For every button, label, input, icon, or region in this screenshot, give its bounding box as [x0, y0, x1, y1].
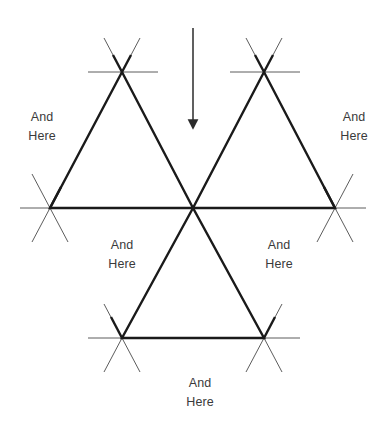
- upper-right-triangle: [193, 72, 335, 208]
- ray-diag-bottom-right-c: [246, 338, 264, 372]
- label-inner-left-line2: Here: [98, 255, 146, 274]
- diagram-canvas: And Here And Here And Here And Here And …: [0, 0, 386, 425]
- ray-diag-mid-left-b: [32, 208, 50, 242]
- stub-top-right-b: [255, 55, 264, 72]
- label-inner-right-line1: And: [255, 236, 303, 255]
- ray-diag-mid-left-c: [50, 208, 68, 242]
- upper-left-triangle: [50, 72, 193, 208]
- label-upper-left: And Here: [18, 108, 66, 146]
- label-upper-left-line2: Here: [18, 127, 66, 146]
- ray-diag-mid-right-c: [317, 208, 335, 242]
- ray-diag-bottom-left-b: [104, 338, 122, 372]
- triangles-figure: [0, 0, 386, 425]
- ray-diag-mid-left-a: [32, 174, 50, 208]
- stub-bottom-left: [111, 317, 122, 338]
- label-inner-right: And Here: [255, 236, 303, 274]
- label-inner-right-line2: Here: [255, 255, 303, 274]
- stub-bottom-right: [264, 317, 275, 338]
- label-inner-left-line1: And: [98, 236, 146, 255]
- label-bottom: And Here: [176, 374, 224, 412]
- label-bottom-line1: And: [176, 374, 224, 393]
- label-bottom-line2: Here: [176, 393, 224, 412]
- label-upper-right: And Here: [330, 108, 378, 146]
- label-upper-left-line1: And: [18, 108, 66, 127]
- label-inner-left: And Here: [98, 236, 146, 274]
- ray-diag-bottom-left-c: [122, 338, 140, 372]
- stub-top-left-a: [122, 55, 131, 72]
- label-upper-right-line1: And: [330, 108, 378, 127]
- ray-diag-mid-right-b: [335, 208, 353, 242]
- stub-mid-left: [50, 187, 61, 208]
- stub-mid-right: [324, 187, 335, 208]
- stub-top-left-b: [113, 55, 122, 72]
- ray-diag-bottom-right-b: [264, 338, 282, 372]
- stub-top-right-a: [264, 55, 273, 72]
- ray-diag-mid-right-a: [335, 174, 353, 208]
- label-upper-right-line2: Here: [330, 127, 378, 146]
